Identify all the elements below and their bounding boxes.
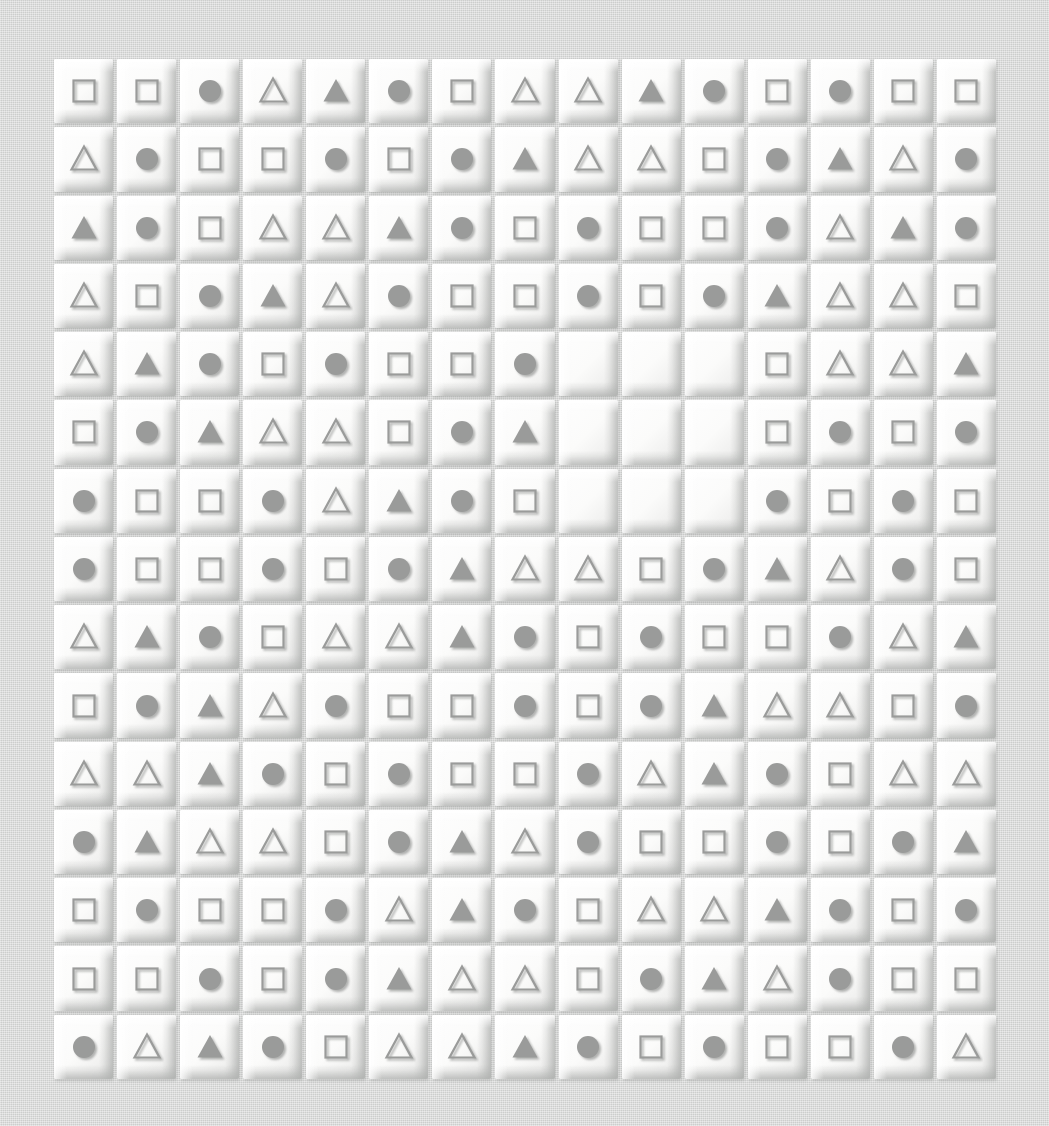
shape-tile-circle-filled[interactable] bbox=[935, 398, 998, 466]
shape-tile-triangle-outline[interactable] bbox=[746, 944, 809, 1012]
shape-tile-triangle-outline[interactable] bbox=[304, 467, 367, 535]
shape-tile-square-outline[interactable] bbox=[872, 944, 935, 1012]
shape-tile-triangle-filled[interactable] bbox=[683, 740, 746, 808]
shape-tile-triangle-outline[interactable] bbox=[620, 125, 683, 193]
shape-tile-triangle-outline[interactable] bbox=[746, 671, 809, 739]
shape-tile-triangle-filled[interactable] bbox=[935, 603, 998, 671]
shape-tile-triangle-filled[interactable] bbox=[809, 125, 872, 193]
shape-tile-circle-filled[interactable] bbox=[304, 876, 367, 944]
shape-tile-circle-filled[interactable] bbox=[683, 1013, 746, 1081]
shape-tile-square-outline[interactable] bbox=[52, 944, 115, 1012]
shape-tile-square-outline[interactable] bbox=[178, 876, 241, 944]
shape-tile-triangle-filled[interactable] bbox=[746, 262, 809, 330]
shape-tile-square-outline[interactable] bbox=[872, 398, 935, 466]
empty-tile[interactable] bbox=[557, 330, 620, 398]
shape-tile-triangle-outline[interactable] bbox=[430, 1013, 493, 1081]
shape-tile-circle-filled[interactable] bbox=[241, 467, 304, 535]
shape-tile-square-outline[interactable] bbox=[493, 467, 556, 535]
shape-tile-circle-filled[interactable] bbox=[809, 398, 872, 466]
shape-tile-triangle-filled[interactable] bbox=[178, 740, 241, 808]
shape-tile-square-outline[interactable] bbox=[52, 57, 115, 125]
shape-tile-triangle-outline[interactable] bbox=[241, 671, 304, 739]
shape-tile-circle-filled[interactable] bbox=[241, 740, 304, 808]
shape-tile-square-outline[interactable] bbox=[557, 671, 620, 739]
shape-tile-triangle-filled[interactable] bbox=[493, 1013, 556, 1081]
empty-tile[interactable] bbox=[620, 330, 683, 398]
shape-tile-triangle-filled[interactable] bbox=[304, 57, 367, 125]
shape-tile-square-outline[interactable] bbox=[430, 740, 493, 808]
shape-tile-circle-filled[interactable] bbox=[241, 1013, 304, 1081]
shape-tile-square-outline[interactable] bbox=[430, 671, 493, 739]
shape-tile-circle-filled[interactable] bbox=[304, 125, 367, 193]
shape-tile-square-outline[interactable] bbox=[683, 808, 746, 876]
empty-tile[interactable] bbox=[683, 467, 746, 535]
shape-tile-triangle-outline[interactable] bbox=[683, 876, 746, 944]
shape-tile-triangle-filled[interactable] bbox=[115, 603, 178, 671]
shape-tile-square-outline[interactable] bbox=[872, 57, 935, 125]
shape-tile-square-outline[interactable] bbox=[241, 125, 304, 193]
shape-tile-square-outline[interactable] bbox=[178, 535, 241, 603]
shape-tile-triangle-outline[interactable] bbox=[367, 1013, 430, 1081]
shape-tile-circle-filled[interactable] bbox=[872, 1013, 935, 1081]
shape-tile-triangle-filled[interactable] bbox=[935, 808, 998, 876]
empty-tile[interactable] bbox=[620, 467, 683, 535]
shape-tile-circle-filled[interactable] bbox=[935, 194, 998, 262]
shape-tile-circle-filled[interactable] bbox=[935, 125, 998, 193]
shape-tile-square-outline[interactable] bbox=[304, 740, 367, 808]
shape-tile-square-outline[interactable] bbox=[809, 740, 872, 808]
shape-tile-triangle-filled[interactable] bbox=[430, 603, 493, 671]
shape-tile-triangle-outline[interactable] bbox=[304, 603, 367, 671]
shape-tile-triangle-outline[interactable] bbox=[493, 808, 556, 876]
shape-tile-triangle-filled[interactable] bbox=[430, 876, 493, 944]
shape-tile-square-outline[interactable] bbox=[935, 944, 998, 1012]
shape-tile-circle-filled[interactable] bbox=[178, 330, 241, 398]
shape-tile-triangle-outline[interactable] bbox=[52, 603, 115, 671]
shape-tile-circle-filled[interactable] bbox=[746, 125, 809, 193]
shape-tile-triangle-filled[interactable] bbox=[872, 194, 935, 262]
shape-tile-triangle-outline[interactable] bbox=[872, 740, 935, 808]
shape-tile-triangle-outline[interactable] bbox=[304, 194, 367, 262]
shape-tile-triangle-filled[interactable] bbox=[178, 1013, 241, 1081]
shape-tile-square-outline[interactable] bbox=[620, 262, 683, 330]
shape-tile-square-outline[interactable] bbox=[52, 398, 115, 466]
shape-tile-square-outline[interactable] bbox=[935, 262, 998, 330]
shape-tile-circle-filled[interactable] bbox=[52, 1013, 115, 1081]
shape-tile-circle-filled[interactable] bbox=[746, 740, 809, 808]
shape-tile-square-outline[interactable] bbox=[304, 1013, 367, 1081]
shape-tile-circle-filled[interactable] bbox=[872, 808, 935, 876]
shape-tile-triangle-outline[interactable] bbox=[367, 603, 430, 671]
shape-tile-circle-filled[interactable] bbox=[304, 330, 367, 398]
shape-tile-triangle-outline[interactable] bbox=[872, 330, 935, 398]
shape-tile-circle-filled[interactable] bbox=[872, 535, 935, 603]
shape-tile-triangle-outline[interactable] bbox=[241, 808, 304, 876]
shape-tile-square-outline[interactable] bbox=[493, 740, 556, 808]
shape-tile-circle-filled[interactable] bbox=[557, 1013, 620, 1081]
shape-tile-circle-filled[interactable] bbox=[493, 876, 556, 944]
shape-tile-circle-filled[interactable] bbox=[52, 467, 115, 535]
shape-tile-circle-filled[interactable] bbox=[241, 535, 304, 603]
shape-tile-triangle-outline[interactable] bbox=[241, 398, 304, 466]
shape-tile-square-outline[interactable] bbox=[367, 125, 430, 193]
shape-tile-circle-filled[interactable] bbox=[809, 876, 872, 944]
shape-tile-circle-filled[interactable] bbox=[367, 808, 430, 876]
shape-tile-square-outline[interactable] bbox=[178, 467, 241, 535]
shape-tile-square-outline[interactable] bbox=[557, 944, 620, 1012]
shape-tile-square-outline[interactable] bbox=[367, 671, 430, 739]
shape-tile-circle-filled[interactable] bbox=[683, 57, 746, 125]
shape-tile-circle-filled[interactable] bbox=[746, 808, 809, 876]
shape-tile-triangle-outline[interactable] bbox=[493, 535, 556, 603]
shape-tile-triangle-outline[interactable] bbox=[809, 262, 872, 330]
shape-tile-circle-filled[interactable] bbox=[115, 194, 178, 262]
shape-tile-circle-filled[interactable] bbox=[430, 398, 493, 466]
shape-tile-triangle-filled[interactable] bbox=[935, 330, 998, 398]
empty-tile[interactable] bbox=[683, 398, 746, 466]
shape-tile-square-outline[interactable] bbox=[52, 671, 115, 739]
shape-tile-circle-filled[interactable] bbox=[557, 740, 620, 808]
shape-tile-circle-filled[interactable] bbox=[178, 944, 241, 1012]
shape-tile-square-outline[interactable] bbox=[367, 330, 430, 398]
shape-tile-square-outline[interactable] bbox=[872, 671, 935, 739]
shape-tile-triangle-outline[interactable] bbox=[241, 57, 304, 125]
shape-tile-triangle-outline[interactable] bbox=[872, 603, 935, 671]
shape-tile-circle-filled[interactable] bbox=[178, 57, 241, 125]
shape-tile-circle-filled[interactable] bbox=[809, 603, 872, 671]
